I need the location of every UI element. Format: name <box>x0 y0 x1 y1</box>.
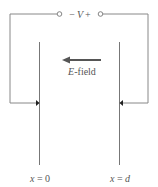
capacitor-diagram: −V+ E-field x = 0 x = d <box>0 0 158 187</box>
e-field-label: E-field <box>67 66 96 77</box>
left-junction-icon <box>36 100 40 106</box>
negative-terminal-icon <box>57 12 62 17</box>
positive-terminal-icon <box>98 12 103 17</box>
left-plate-label: x = 0 <box>29 173 50 184</box>
source-label: −V+ <box>69 9 91 20</box>
right-junction-icon <box>120 100 124 106</box>
right-plate-label: x = d <box>109 173 131 184</box>
e-field-arrow-icon <box>62 57 70 64</box>
